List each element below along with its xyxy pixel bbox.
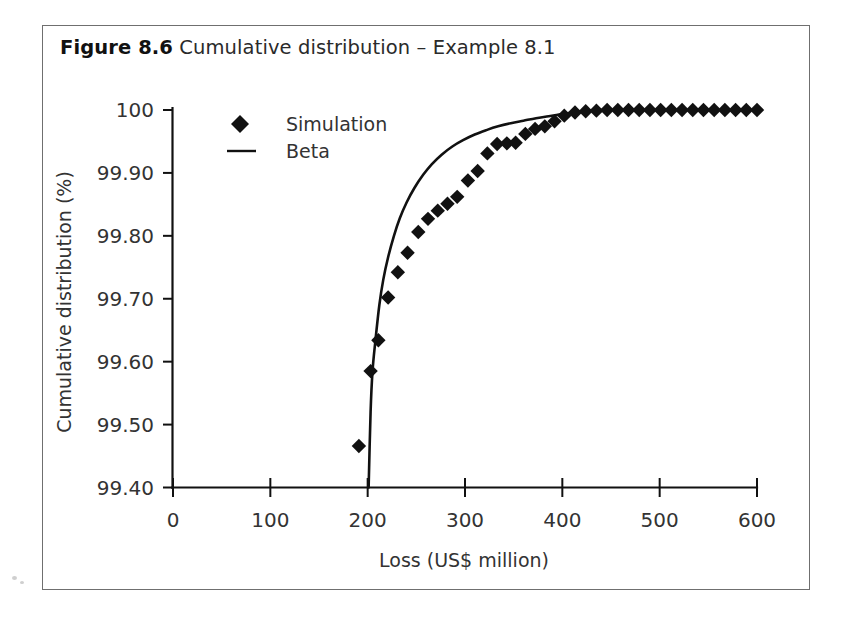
y-tick-label: 99.60 — [97, 350, 154, 374]
simulation-data-point — [400, 246, 414, 260]
simulation-data-point — [470, 164, 484, 178]
x-axis-ticks: 0100200300400500600 — [167, 478, 776, 532]
simulation-data-point — [508, 136, 522, 150]
simulation-data-point — [381, 290, 395, 304]
x-tick-label: 200 — [349, 508, 387, 532]
x-tick-label: 400 — [543, 508, 581, 532]
legend-diamond-icon — [231, 115, 249, 133]
simulation-data-point — [352, 439, 366, 453]
simulation-data-point — [480, 146, 494, 160]
x-tick-label: 300 — [446, 508, 484, 532]
y-tick-label: 99.40 — [97, 476, 154, 500]
y-axis-title: Cumulative distribution (%) — [53, 171, 75, 433]
figure-container: Figure 8.6 Cumulative distribution – Exa… — [0, 0, 850, 623]
legend-label-simulation: Simulation — [286, 113, 387, 135]
simulation-data-point — [750, 103, 764, 117]
chart-legend: Simulation Beta — [227, 113, 387, 162]
simulation-data-point — [371, 333, 385, 347]
simulation-data-point — [421, 212, 435, 226]
x-tick-label: 500 — [641, 508, 679, 532]
simulation-data-point — [461, 173, 475, 187]
x-tick-label: 0 — [167, 508, 180, 532]
simulation-data-point — [363, 364, 377, 378]
chart-axes — [173, 108, 758, 488]
y-tick-label: 99.50 — [97, 413, 154, 437]
cumulative-distribution-chart: 99.4099.5099.6099.7099.8099.90100 010020… — [0, 0, 850, 623]
simulation-data-point — [411, 225, 425, 239]
x-tick-label: 600 — [738, 508, 776, 532]
x-axis-title: Loss (US$ million) — [379, 549, 549, 571]
y-tick-label: 100 — [116, 98, 154, 122]
beta-curve-series — [369, 110, 602, 488]
legend-label-beta: Beta — [286, 140, 330, 162]
beta-curve-line — [369, 110, 602, 488]
simulation-data-point — [391, 265, 405, 279]
y-tick-label: 99.70 — [97, 287, 154, 311]
simulation-scatter-series — [352, 103, 764, 453]
y-tick-label: 99.80 — [97, 224, 154, 248]
x-tick-label: 100 — [251, 508, 289, 532]
y-axis-ticks: 99.4099.5099.6099.7099.8099.90100 — [97, 98, 173, 500]
y-tick-label: 99.90 — [97, 161, 154, 185]
